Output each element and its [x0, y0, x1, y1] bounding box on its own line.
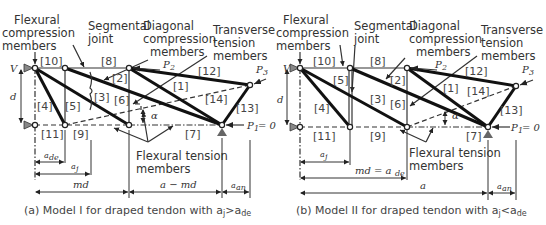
- svg-text:= 0: = 0: [522, 122, 541, 133]
- svg-text:joint: joint: [353, 32, 380, 46]
- svg-text:[6]: [6]: [390, 98, 406, 111]
- svg-text:de: de: [395, 169, 405, 178]
- svg-text:α: α: [151, 110, 158, 121]
- panel-a: Flexural compression members Segmental j…: [2, 13, 277, 218]
- svg-text:[12]: [12]: [198, 65, 221, 78]
- caption-a: (a) Model I for draped tendon with aj>ad…: [24, 204, 251, 218]
- svg-text:[14]: [14]: [205, 93, 228, 106]
- svg-text:[11]: [11]: [41, 128, 64, 141]
- svg-text:joint: joint: [87, 32, 114, 46]
- svg-text:a − md: a − md: [160, 179, 197, 190]
- svg-text:P: P: [255, 64, 263, 75]
- svg-text:[1]: [1]: [443, 82, 459, 95]
- svg-text:[9]: [9]: [73, 128, 89, 141]
- support-triangle-icon: [217, 128, 227, 136]
- svg-text:compression: compression: [143, 32, 216, 46]
- svg-text:members: members: [481, 49, 536, 63]
- svg-text:Flexural tension: Flexural tension: [409, 146, 501, 160]
- svg-text:[8]: [8]: [370, 55, 386, 68]
- svg-text:members: members: [213, 49, 268, 63]
- svg-text:V: V: [10, 63, 19, 74]
- label-segmental-joint: Segmental joint: [353, 19, 416, 46]
- svg-text:[3]: [3]: [94, 91, 110, 104]
- svg-text:Flexural tension: Flexural tension: [136, 149, 228, 163]
- svg-text:[11]: [11]: [313, 130, 336, 143]
- svg-text:3: 3: [529, 68, 534, 77]
- svg-text:Segmental: Segmental: [354, 19, 416, 33]
- svg-text:[9]: [9]: [370, 130, 386, 143]
- svg-text:d: d: [277, 94, 283, 105]
- svg-text:[14]: [14]: [467, 85, 490, 98]
- svg-text:(a) Model I for draped tendon: (a) Model I for draped tendon with aj>ad…: [24, 204, 251, 218]
- svg-text:[4]: [4]: [314, 102, 330, 115]
- svg-text:compression: compression: [276, 26, 349, 40]
- label-segmental-joint: Segmental joint: [87, 19, 150, 46]
- svg-text:α: α: [452, 110, 459, 121]
- svg-text:compression: compression: [2, 26, 75, 40]
- svg-text:de: de: [49, 153, 59, 162]
- svg-text:Diagonal: Diagonal: [143, 19, 194, 33]
- svg-text:= 0: = 0: [258, 120, 277, 131]
- svg-text:Diagonal: Diagonal: [409, 19, 460, 33]
- svg-text:[1]: [1]: [173, 80, 189, 93]
- svg-text:P: P: [521, 64, 529, 75]
- panel-b: Flexural compression members Segmental j…: [276, 13, 543, 218]
- svg-text:2: 2: [441, 63, 447, 72]
- svg-text:Segmental: Segmental: [88, 19, 150, 33]
- svg-text:2: 2: [169, 63, 175, 72]
- svg-text:Transverse: Transverse: [212, 23, 275, 37]
- label-diagonal-compression: Diagonal compression members: [143, 19, 216, 59]
- svg-text:[10]: [10]: [40, 55, 63, 68]
- svg-text:compression: compression: [409, 32, 482, 46]
- label-flexural-compression: Flexural compression members: [2, 13, 75, 53]
- svg-text:members: members: [416, 45, 471, 59]
- svg-text:md = a: md = a: [355, 165, 392, 176]
- svg-text:d: d: [10, 91, 16, 102]
- caption-b: (b) Model II for draped tendon with aj<a…: [296, 204, 527, 218]
- svg-text:[4]: [4]: [37, 100, 53, 113]
- svg-text:P: P: [434, 59, 442, 70]
- svg-text:md: md: [73, 179, 89, 190]
- svg-text:[3]: [3]: [370, 93, 386, 106]
- svg-text:3: 3: [263, 68, 268, 77]
- svg-text:[6]: [6]: [114, 94, 130, 107]
- svg-text:members: members: [409, 159, 464, 173]
- label-flexural-tension: Flexural tension members: [136, 149, 228, 176]
- svg-text:Transverse: Transverse: [480, 23, 543, 37]
- svg-text:[2]: [2]: [112, 72, 128, 85]
- svg-text:P: P: [510, 122, 518, 133]
- svg-text:P: P: [162, 59, 170, 70]
- svg-text:tension: tension: [481, 36, 523, 50]
- svg-text:[13]: [13]: [236, 102, 259, 115]
- svg-text:members: members: [136, 162, 191, 176]
- support-triangle-icon: [483, 130, 493, 138]
- svg-text:[12]: [12]: [465, 65, 488, 78]
- svg-text:tension: tension: [213, 36, 255, 50]
- svg-text:Flexural: Flexural: [14, 13, 60, 27]
- label-transverse-tension: Transverse tension members: [480, 23, 543, 63]
- svg-text:an: an: [502, 184, 512, 193]
- svg-text:[2]: [2]: [390, 74, 406, 87]
- svg-text:[13]: [13]: [500, 104, 523, 117]
- label-transverse-tension: Transverse tension members: [212, 23, 275, 63]
- svg-text:members: members: [2, 39, 57, 53]
- label-flexural-tension: Flexural tension members: [409, 146, 501, 173]
- svg-text:[10]: [10]: [313, 55, 336, 68]
- svg-text:[7]: [7]: [466, 130, 482, 143]
- svg-text:(b) Model II for draped tendo: (b) Model II for draped tendon with aj<a…: [296, 204, 527, 218]
- svg-text:an: an: [236, 183, 246, 192]
- svg-text:a: a: [420, 180, 426, 191]
- svg-text:members: members: [276, 39, 331, 53]
- label-flexural-compression: Flexural compression members: [276, 13, 349, 53]
- label-diagonal-compression: Diagonal compression members: [409, 19, 482, 59]
- strut-and-tie-diagram: Flexural compression members Segmental j…: [0, 0, 546, 225]
- svg-text:[5]: [5]: [65, 100, 81, 113]
- svg-text:[5]: [5]: [333, 74, 349, 87]
- svg-text:[7]: [7]: [185, 128, 201, 141]
- svg-text:[8]: [8]: [101, 55, 117, 68]
- svg-text:P: P: [246, 120, 254, 131]
- svg-text:Flexural: Flexural: [283, 13, 329, 27]
- svg-text:members: members: [150, 45, 205, 59]
